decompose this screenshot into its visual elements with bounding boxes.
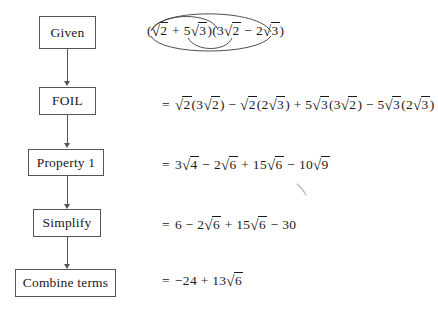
coefficient-5-b: 5 — [305, 97, 312, 112]
connector-given-to-foil — [67, 49, 68, 82]
step-label-given: Given — [51, 25, 85, 41]
radical-2-c: √2 — [175, 96, 192, 113]
coefficient-15-b: 15 — [236, 217, 250, 232]
equals-sign-foil: = — [162, 97, 170, 113]
radical-2-e: √2 — [240, 96, 257, 113]
coefficient-10-a: 10 — [299, 157, 313, 172]
equals-sign-combine: = — [162, 273, 170, 289]
radical-2-f: √2 — [341, 96, 358, 113]
radical-6-e: √6 — [226, 272, 243, 289]
radical-3-e: √3 — [385, 96, 402, 113]
coefficient-2-c: 2 — [197, 217, 204, 232]
operator-plus-c: + — [241, 157, 249, 172]
term4-group: (2 — [401, 97, 413, 112]
operator-minus-g: − — [271, 217, 279, 232]
operator-minus-e: − — [287, 157, 295, 172]
operator-minus-f: − — [186, 217, 194, 232]
last-arc — [188, 38, 232, 49]
step-label-foil: FOIL — [52, 93, 83, 109]
term1-group: (3 — [192, 97, 204, 112]
coefficient-2-b: 2 — [214, 157, 221, 172]
radical-9-a: √9 — [313, 156, 330, 173]
connector-simplify-to-combine — [67, 237, 68, 265]
radical-6-c: √6 — [204, 216, 221, 233]
equation-given: (√2 + 5√3)(3√2 − 2√3) — [147, 22, 284, 39]
arrowhead-foil-to-property — [64, 143, 70, 148]
step-label-combine-terms: Combine terms — [23, 275, 108, 291]
equals-sign-simplify: = — [162, 217, 170, 233]
radical-3-d: √3 — [312, 96, 329, 113]
step-box-foil[interactable]: FOIL — [39, 87, 96, 115]
scan-artifact-mark — [294, 182, 312, 198]
flowchart-page: Given (√2 + 5√3)(3√2 − 2√3) FOIL =√2(3√2… — [0, 0, 438, 319]
radical-2-d: √2 — [203, 96, 220, 113]
equation-foil: =√2(3√2) − √2(2√3) + 5√3(3√2) − 5√3(2√3) — [162, 96, 434, 113]
equation-simplify: =6 − 2√6 + 15√6 − 30 — [162, 216, 296, 233]
equation-combine-terms: =−24 + 13√6 — [162, 272, 243, 289]
connector-property-to-simplify — [67, 176, 68, 205]
step-box-simplify[interactable]: Simplify — [33, 209, 101, 237]
operator-minus-d: − — [202, 157, 210, 172]
radical-6-d: √6 — [250, 216, 267, 233]
coefficient-3-a: 3 — [217, 23, 224, 38]
step-box-given[interactable]: Given — [39, 16, 96, 49]
term3-group: (3 — [329, 97, 341, 112]
radical-3-f: √3 — [413, 96, 430, 113]
step-box-property-1[interactable]: Property 1 — [28, 149, 104, 176]
value-30: 30 — [282, 217, 296, 232]
coefficient-13: 13 — [212, 273, 226, 288]
operator-minus-a: − — [244, 23, 252, 38]
operator-plus-d: + — [225, 217, 233, 232]
coefficient-5-a: 5 — [184, 23, 191, 38]
coefficient-2-a: 2 — [256, 23, 263, 38]
equation-property-1: =3√4 − 2√6 + 15√6 − 10√9 — [162, 156, 330, 173]
coefficient-15-a: 15 — [253, 157, 267, 172]
value-6: 6 — [175, 217, 182, 232]
left-paren-close: )( — [207, 23, 217, 38]
operator-plus-e: + — [201, 273, 209, 288]
operator-minus-c: − — [366, 97, 374, 112]
operator-minus-b: − — [228, 97, 236, 112]
radical-3-b: √3 — [263, 22, 280, 39]
radical-4-a: √4 — [182, 156, 199, 173]
equals-sign-property: = — [162, 157, 170, 173]
step-label-simplify: Simplify — [43, 215, 92, 231]
coefficient-3-b: 3 — [175, 157, 182, 172]
radical-3-a: √3 — [191, 22, 208, 39]
step-box-combine-terms[interactable]: Combine terms — [15, 269, 116, 297]
connector-foil-to-property — [67, 115, 68, 144]
radical-2-b: √2 — [224, 22, 241, 39]
radical-6-a: √6 — [221, 156, 238, 173]
coefficient-5-c: 5 — [378, 97, 385, 112]
radical-2-a: √2 — [152, 22, 169, 39]
step-label-property-1: Property 1 — [37, 155, 96, 171]
radical-6-b: √6 — [267, 156, 284, 173]
right-paren-close: ) — [280, 23, 285, 38]
radical-3-c: √3 — [269, 96, 286, 113]
term2-group: (2 — [257, 97, 269, 112]
constant-negative-24: −24 — [175, 273, 197, 288]
operator-plus-b: + — [294, 97, 302, 112]
arrowhead-given-to-foil — [64, 81, 70, 86]
operator-plus-a: + — [172, 23, 180, 38]
